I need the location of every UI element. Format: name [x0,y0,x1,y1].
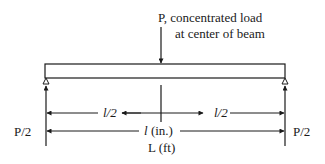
span-label-inches: l (in.) [141,124,176,137]
half-span-right-label: l/2 [212,106,230,119]
left-reaction-label: P/2 [14,125,31,138]
left-support-icon [43,78,49,84]
right-support-icon [282,78,288,84]
half-span-left-label: l/2 [101,106,119,119]
span-unit: (in.) [148,123,173,138]
beam [45,64,285,78]
load-label-line2: at center of beam [175,27,265,40]
load-label-line1: P, concentrated load [158,11,262,24]
right-reaction-label: P/2 [293,125,310,138]
span-label-feet: L (ft) [148,141,175,154]
